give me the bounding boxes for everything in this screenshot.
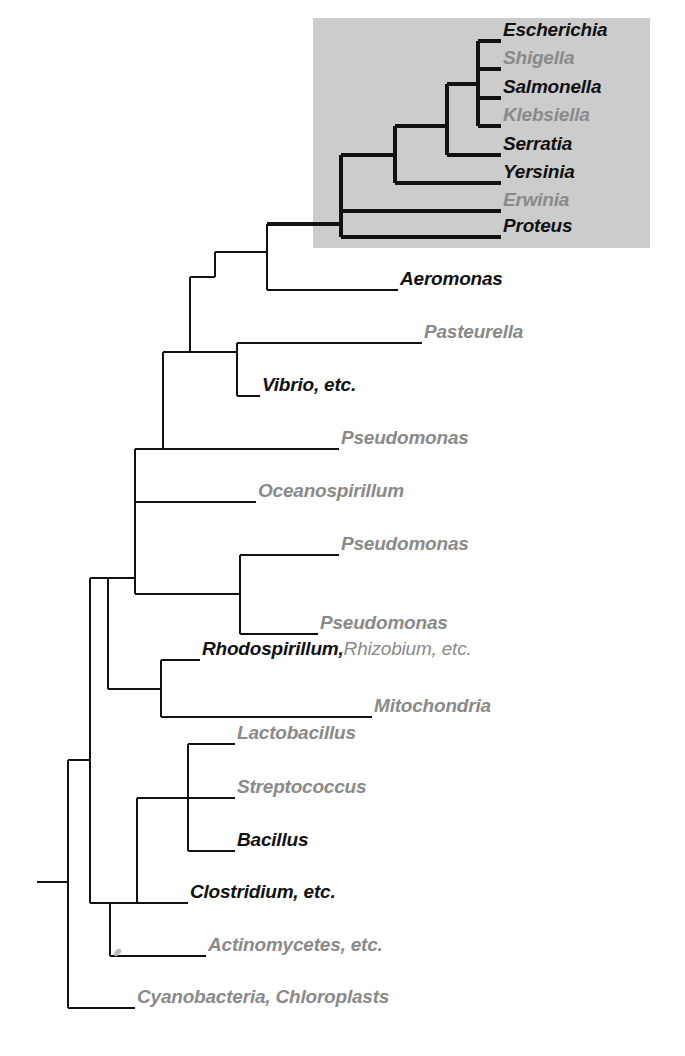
taxon-label-escherichia: Escherichia: [503, 20, 607, 39]
taxon-label-oceanospirillum: Oceanospirillum: [258, 481, 404, 500]
taxon-label-pseudomonas-1: Pseudomonas: [341, 428, 469, 447]
taxon-label-klebsiella: Klebsiella: [503, 105, 590, 124]
taxon-label-serratia: Serratia: [503, 134, 572, 153]
taxon-label-erwinia: Erwinia: [503, 190, 569, 209]
clade-enterobacteria: [267, 41, 501, 237]
taxon-label-bacillus: Bacillus: [237, 830, 308, 849]
taxon-label-clostridium: Clostridium, etc.: [190, 882, 335, 901]
taxon-label-vibrio: Vibrio, etc.: [262, 375, 356, 394]
taxon-label-yersinia: Yersinia: [503, 162, 575, 181]
taxon-label-pseudomonas-2: Pseudomonas: [341, 534, 469, 553]
taxon-label-proteus: Proteus: [503, 216, 572, 235]
taxon-label-shigella: Shigella: [503, 48, 574, 67]
taxon-label-aeromonas: Aeromonas: [400, 269, 503, 288]
root-branch: [37, 760, 135, 1008]
taxon-label-rhodospirillum-rhizobium: Rhodospirillum,Rhizobium, etc.: [202, 639, 472, 658]
taxon-label-salmonella: Salmonella: [503, 77, 601, 96]
taxon-label-actinomycetes: Actinomycetes, etc.: [208, 935, 383, 954]
taxon-label-rhodospirillum: Rhodospirillum,: [202, 638, 344, 659]
taxon-label-cyanobacteria: Cyanobacteria, Chloroplasts: [137, 987, 389, 1006]
taxon-label-lactobacillus: Lactobacillus: [237, 723, 356, 742]
phylogenetic-tree-figure: Escherichia Shigella Salmonella Klebsiel…: [0, 0, 685, 1056]
taxon-label-streptococcus: Streptococcus: [237, 777, 366, 796]
taxon-label-pseudomonas-3: Pseudomonas: [320, 613, 448, 632]
tree-branches: [0, 0, 685, 1056]
taxon-label-mitochondria: Mitochondria: [374, 696, 491, 715]
clade-gram-positive: [110, 744, 235, 956]
taxon-label-pasteurella: Pasteurella: [424, 322, 523, 341]
taxon-label-rhizobium: Rhizobium, etc.: [344, 638, 472, 659]
